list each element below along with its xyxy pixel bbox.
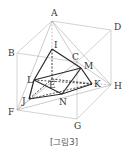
vertex-label-A: A xyxy=(50,8,58,18)
vertex-label-N: N xyxy=(59,97,67,107)
vertex-label-B: B xyxy=(8,48,15,58)
vertex-label-E: E xyxy=(49,80,56,90)
edge-FG xyxy=(17,110,77,119)
edge-AD xyxy=(52,21,111,30)
edge-GH xyxy=(77,85,111,119)
vertex-label-J: J xyxy=(21,96,26,106)
edge-CD xyxy=(77,30,111,62)
edge-IL xyxy=(34,49,52,80)
edge-AB xyxy=(17,21,52,53)
vertex-label-I: I xyxy=(54,40,58,50)
vertex-labels: ABCDEFGHIJKLMN xyxy=(8,8,122,131)
vertex-label-C: C xyxy=(72,52,79,62)
cube-octahedron-figure: ABCDEFGHIJKLMN [그림3] xyxy=(0,0,128,155)
edge-AH xyxy=(52,21,111,85)
vertex-label-F: F xyxy=(8,107,14,117)
vertex-label-M: M xyxy=(84,61,93,71)
vertex-label-H: H xyxy=(114,81,122,91)
figure-caption: [그림3] xyxy=(50,137,78,147)
vertex-label-G: G xyxy=(74,121,81,131)
vertex-label-D: D xyxy=(114,22,121,32)
vertex-label-L: L xyxy=(27,75,33,85)
vertex-label-K: K xyxy=(94,79,101,89)
